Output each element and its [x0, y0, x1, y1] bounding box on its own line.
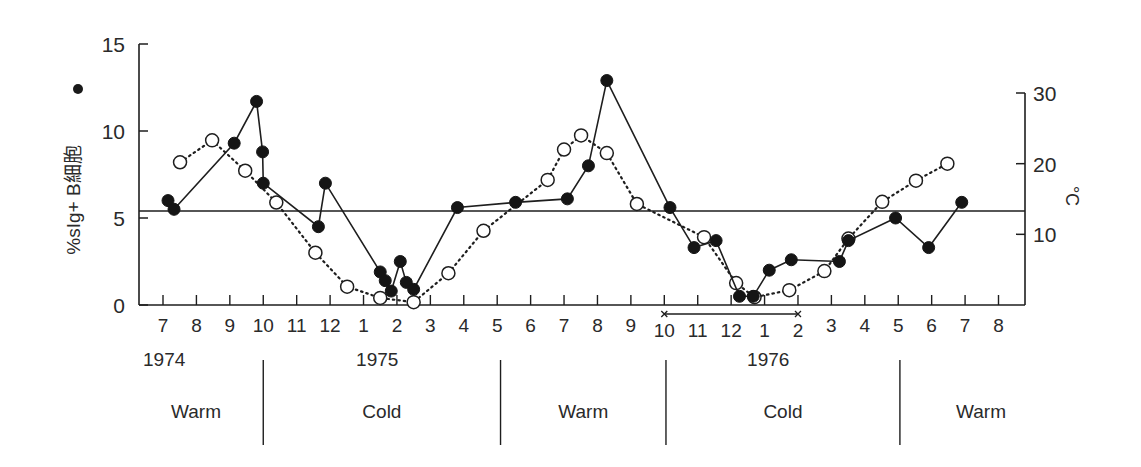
year-label: 1975: [356, 349, 398, 370]
open-circle-marker-icon: [909, 174, 922, 187]
season-bands: WarmColdWarmColdWarm: [171, 360, 1006, 445]
filled-circle-marker-icon: [710, 235, 722, 247]
x-tick-label: 11: [287, 315, 307, 336]
x-tick-label: 9: [626, 315, 637, 336]
filled-circle-marker-icon: [312, 221, 324, 233]
filled-circle-marker-icon: [582, 160, 594, 172]
temperature-line: [180, 135, 947, 302]
x-tick-label: 2: [392, 315, 403, 336]
filled-circle-marker-icon: [257, 177, 269, 189]
x-tick-label: 7: [158, 315, 169, 336]
filled-circle-marker-icon: [842, 235, 854, 247]
y-axis-marker-icon: [73, 84, 83, 94]
filled-circle-marker-icon: [601, 75, 613, 87]
open-circle-marker-icon: [575, 129, 588, 142]
chart: 051015102030 789101112123456789101112123…: [0, 0, 1141, 467]
y2-axis-title: °C: [1062, 186, 1082, 206]
y2-tick-label: 10: [1033, 223, 1056, 246]
x-tick-label: 1: [358, 315, 369, 336]
filled-circle-marker-icon: [688, 242, 700, 254]
x-tick-label: 6: [926, 315, 937, 336]
x-tick-label: 2: [793, 320, 804, 341]
open-circle-marker-icon: [558, 143, 571, 156]
x-tick-label: 4: [860, 315, 871, 336]
y-tick-label: 10: [102, 120, 125, 143]
open-circle-marker-icon: [941, 157, 954, 170]
filled-circle-marker-icon: [451, 202, 463, 214]
filled-circle-marker-icon: [510, 196, 522, 208]
x-tick-label: 7: [559, 315, 570, 336]
filled-circle-marker-icon: [385, 285, 397, 297]
filled-circle-marker-icon: [408, 283, 420, 295]
x-tick-label: 1: [759, 320, 770, 341]
open-circle-marker-icon: [407, 296, 420, 309]
year-label: 1976: [747, 349, 789, 370]
x-tick-label: 12: [320, 315, 341, 336]
x-tick-label: 8: [592, 315, 603, 336]
y-axis-labels: %sIg+ B細胞 °C: [63, 84, 1082, 255]
open-circle-marker-icon: [477, 224, 490, 237]
x-axis-labels: 7891011121234567891011121234567819741975…: [143, 311, 1004, 370]
filled-circle-marker-icon: [394, 256, 406, 268]
filled-circle-marker-icon: [785, 254, 797, 266]
filled-circle-marker-icon: [890, 212, 902, 224]
open-circle-marker-icon: [876, 195, 889, 208]
filled-circle-marker-icon: [168, 203, 180, 215]
filled-circle-marker-icon: [561, 193, 573, 205]
y-tick-label: 5: [113, 207, 125, 230]
series-temperature: [174, 129, 954, 309]
x-tick-label: 12: [721, 320, 742, 341]
x-tick-label: 9: [225, 315, 236, 336]
x-tick-label: 5: [893, 315, 904, 336]
open-circle-marker-icon: [630, 197, 643, 210]
x-tick-label: 4: [458, 315, 469, 336]
open-circle-marker-icon: [541, 173, 554, 186]
y2-tick-label: 30: [1033, 82, 1056, 105]
x-tick-label: 8: [191, 315, 202, 336]
open-circle-marker-icon: [818, 265, 831, 278]
season-label: Warm: [558, 401, 608, 422]
x-tick-label: 10: [654, 320, 675, 341]
season-label: Warm: [956, 401, 1006, 422]
year-label: 1974: [143, 349, 186, 370]
x-tick-label: 11: [688, 320, 708, 341]
season-label: Cold: [362, 401, 401, 422]
filled-circle-marker-icon: [664, 202, 676, 214]
filled-circle-marker-icon: [251, 95, 263, 107]
open-circle-marker-icon: [239, 164, 252, 177]
open-circle-marker-icon: [783, 284, 796, 297]
filled-circle-marker-icon: [257, 146, 269, 158]
filled-circle-marker-icon: [833, 256, 845, 268]
y-tick-label: 15: [102, 33, 125, 56]
filled-circle-marker-icon: [228, 137, 240, 149]
filled-circle-marker-icon: [733, 290, 745, 302]
x-tick-label: 3: [826, 315, 837, 336]
x-tick-label: 5: [492, 315, 503, 336]
filled-circle-marker-icon: [956, 196, 968, 208]
open-circle-marker-icon: [341, 280, 354, 293]
y2-tick-label: 20: [1033, 153, 1056, 176]
y-axis-title: %sIg+ B細胞: [63, 145, 84, 254]
season-label: Cold: [763, 401, 802, 422]
series-b-cells: [162, 75, 968, 303]
x-tick-label: 7: [960, 315, 971, 336]
open-circle-marker-icon: [174, 156, 187, 169]
x-tick-label: 8: [993, 315, 1004, 336]
open-circle-marker-icon: [309, 246, 322, 259]
filled-circle-marker-icon: [319, 177, 331, 189]
filled-circle-marker-icon: [763, 264, 775, 276]
open-circle-marker-icon: [600, 147, 613, 160]
x-tick-label: 10: [253, 315, 274, 336]
season-label: Warm: [171, 401, 221, 422]
open-circle-marker-icon: [206, 134, 219, 147]
open-circle-marker-icon: [374, 291, 387, 304]
x-tick-label: 3: [425, 315, 436, 336]
y-tick-label: 0: [113, 294, 125, 317]
x-tick-label: 6: [525, 315, 536, 336]
filled-circle-marker-icon: [747, 290, 759, 302]
filled-circle-marker-icon: [923, 242, 935, 254]
open-circle-marker-icon: [698, 231, 711, 244]
open-circle-marker-icon: [442, 267, 455, 280]
